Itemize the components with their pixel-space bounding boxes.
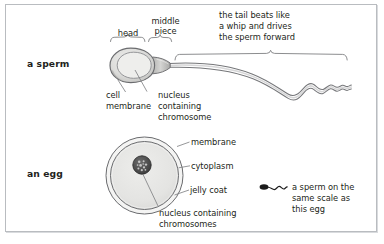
callout-egg-jelly-coat: jelly coat: [190, 185, 227, 195]
callout-cell-membrane-line2: membrane: [106, 101, 151, 111]
callout-sperm-nucleus-line2: containing: [158, 101, 201, 111]
callout-egg-nucleus-line2: chromosomes: [159, 219, 217, 229]
tail-note-line3: the sperm forward: [219, 32, 295, 42]
row-label-egg: an egg: [27, 169, 93, 179]
callout-sperm-nucleus-line1: nucleus: [158, 90, 190, 100]
bracket-label-middle-piece-line2: piece: [144, 26, 187, 36]
scale-note-line1: a sperm on the: [292, 182, 354, 192]
mini-sperm-icon: [260, 184, 288, 189]
callout-cell-membrane-line1: cell: [106, 90, 120, 100]
tail-bracket: [175, 50, 347, 60]
scale-note-line2: same scale as: [292, 193, 350, 203]
bracket-label-middle-piece-line1: middle: [144, 16, 187, 26]
egg-membrane: [111, 142, 179, 210]
sperm-tail: [169, 63, 351, 100]
scale-note-line3: this egg: [292, 204, 325, 214]
sperm-head: [110, 48, 155, 82]
tail-note-line2: a whip and drives: [219, 21, 292, 31]
callout-egg-membrane: membrane: [191, 137, 236, 147]
tail-note-line1: the tail beats like: [219, 10, 290, 20]
row-label-sperm: a sperm: [27, 59, 93, 69]
callout-egg-cytoplasm: cytoplasm: [191, 161, 233, 171]
callout-sperm-nucleus-line3: chromosome: [158, 112, 211, 122]
sperm-and-egg-diagram: a sperm an egg head middle piece the tai…: [0, 0, 384, 244]
egg-nucleus: [133, 156, 151, 174]
membrane-leader: [177, 142, 190, 147]
callout-egg-nucleus-line1: nucleus containing: [159, 208, 236, 218]
